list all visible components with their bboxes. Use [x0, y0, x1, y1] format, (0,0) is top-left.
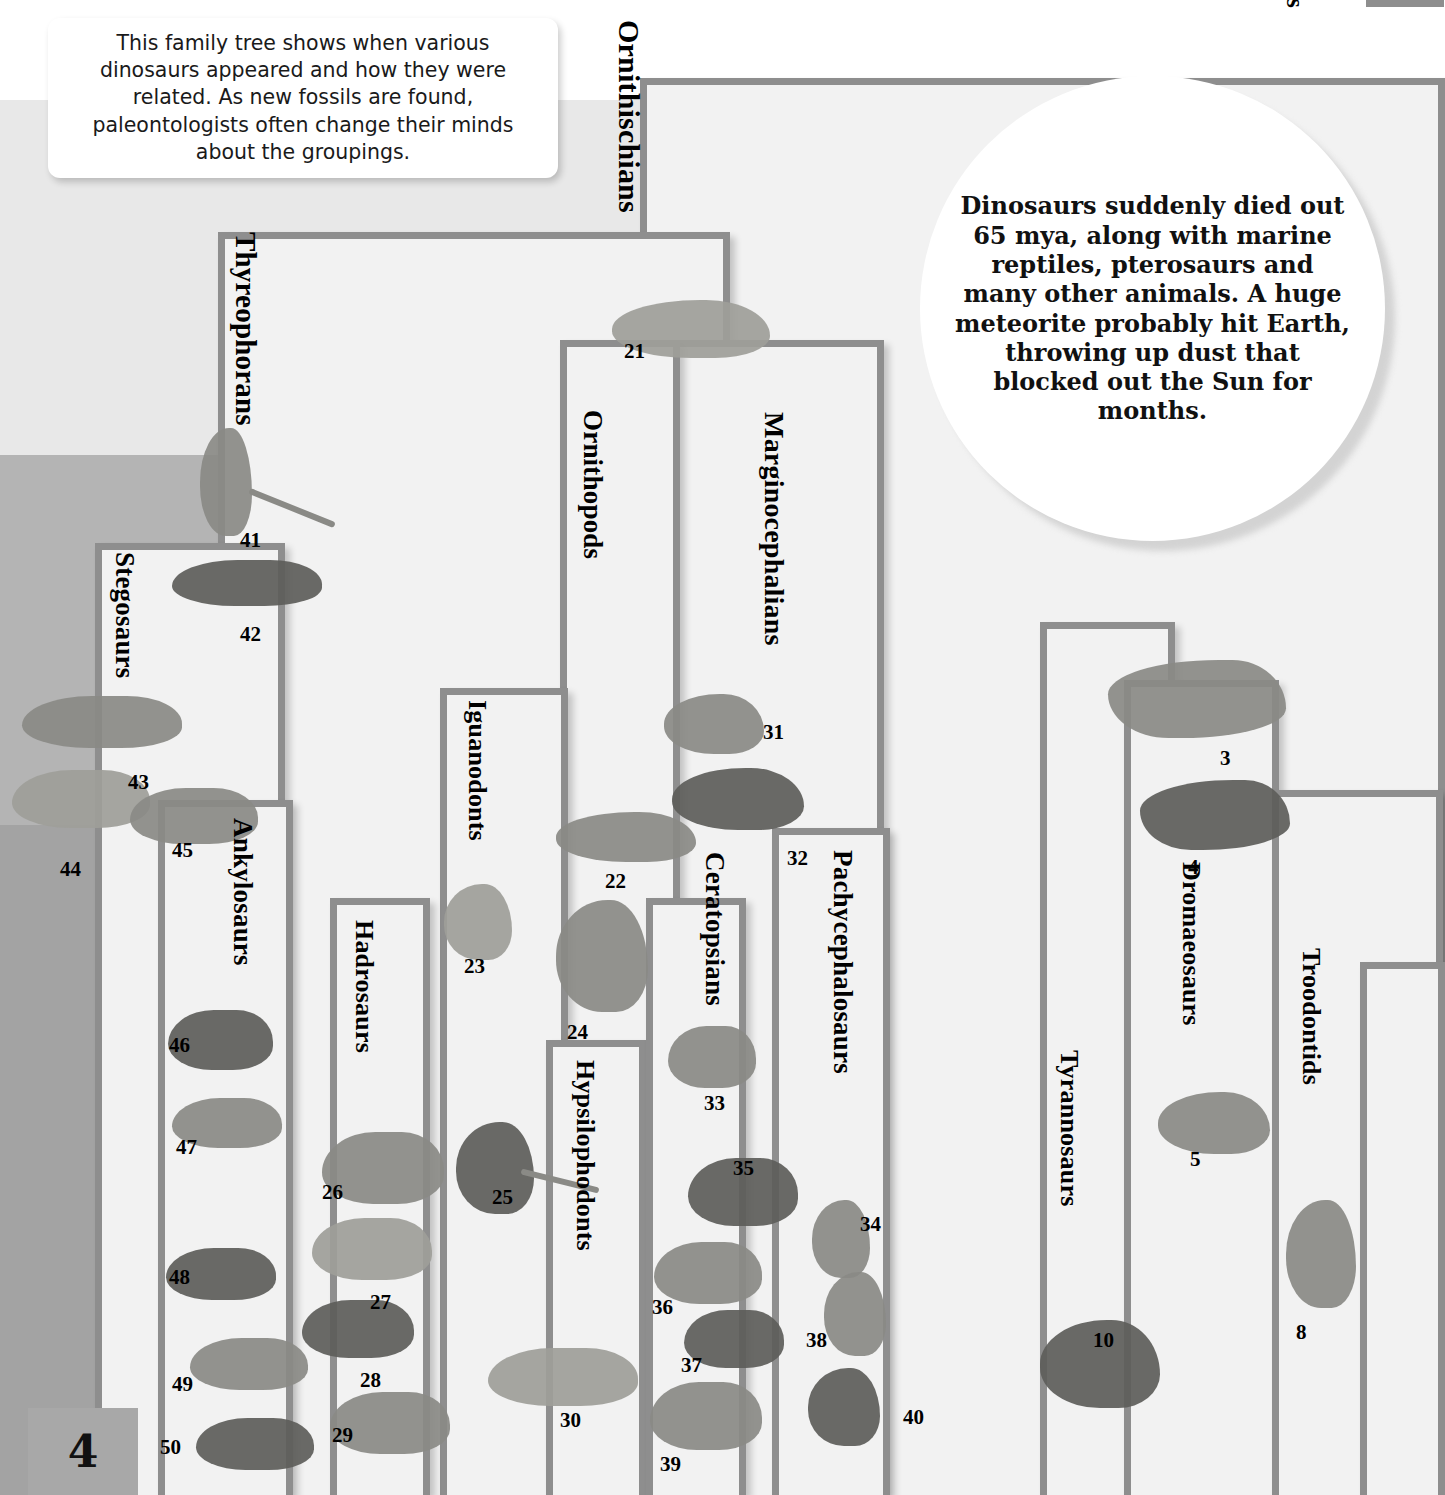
clade-label-hadrosaurs: Hadrosaurs — [349, 920, 379, 1053]
clade-label-marginocephalians: Marginocephalians — [758, 412, 790, 646]
specimen-number-24: 24 — [567, 1020, 588, 1045]
specimen-number-50: 50 — [160, 1435, 181, 1460]
clade-label-ankylosaurs: Ankylosaurs — [227, 818, 258, 966]
specimen-number-5: 5 — [1190, 1147, 1201, 1172]
clade-label-pachycephalosaurs: Pachycephalosaurs — [827, 850, 858, 1074]
clade-label-dromaeosaurs: Dromaeosaurs — [1176, 862, 1206, 1026]
specimen-number-45: 45 — [172, 838, 193, 863]
specimen-number-29: 29 — [332, 1423, 353, 1448]
dino-illustration-5 — [1158, 1092, 1270, 1154]
dino-illustration-8 — [1286, 1200, 1356, 1308]
dino-illustration-41 — [200, 428, 252, 536]
dino-illustration-49 — [190, 1338, 308, 1390]
extinction-callout-circle: Dinosaurs suddenly died out 65 mya, alon… — [920, 76, 1385, 541]
specimen-number-37: 37 — [681, 1353, 702, 1378]
specimen-number-40: 40 — [903, 1405, 924, 1430]
clade-label-stegosaurs: Stegosaurs — [109, 552, 140, 679]
clade-label-hypsilophodonts: Hypsilophodonts — [570, 1060, 600, 1251]
specimen-number-32: 32 — [787, 846, 808, 871]
dino-illustration-40 — [808, 1368, 880, 1446]
specimen-number-48: 48 — [169, 1265, 190, 1290]
specimen-number-46: 46 — [169, 1033, 190, 1058]
clade-label-thyreophorans: Thyreophorans — [229, 232, 262, 426]
clade-label-troodontids: Troodontids — [1296, 948, 1326, 1085]
dino-illustration-4 — [1140, 780, 1290, 850]
specimen-number-27: 27 — [370, 1290, 391, 1315]
intro-caption-text: This family tree shows when various dino… — [68, 30, 538, 166]
dino-illustration-24 — [556, 900, 648, 1012]
clade-bracket-troodontids-inner — [1360, 962, 1445, 1495]
clade-label-iguanodonts: Iguanodonts — [462, 700, 492, 841]
specimen-number-23: 23 — [464, 954, 485, 979]
specimen-number-44: 44 — [60, 857, 81, 882]
specimen-number-21: 21 — [624, 339, 645, 364]
specimen-number-22: 22 — [605, 869, 626, 894]
dino-illustration-39 — [650, 1382, 762, 1450]
specimen-number-49: 49 — [172, 1372, 193, 1397]
specimen-number-8: 8 — [1296, 1320, 1307, 1345]
specimen-number-25: 25 — [492, 1185, 513, 1210]
specimen-number-10: 10 — [1093, 1328, 1114, 1353]
specimen-number-36: 36 — [652, 1295, 673, 1320]
dino-illustration-33 — [668, 1026, 756, 1088]
specimen-number-4: 4 — [1188, 855, 1199, 880]
specimen-number-43: 43 — [128, 770, 149, 795]
specimen-number-33: 33 — [704, 1091, 725, 1116]
clade-label-ceratopsians: Ceratopsians — [699, 852, 730, 1006]
cut-off-label-glyph: s — [1281, 0, 1309, 8]
specimen-number-30: 30 — [560, 1408, 581, 1433]
dino-illustration-23 — [444, 884, 512, 960]
specimen-number-42: 42 — [240, 622, 261, 647]
clade-label-ornithischians: Ornithischians — [612, 20, 646, 213]
dino-illustration-32 — [672, 768, 804, 830]
specimen-number-47: 47 — [176, 1135, 197, 1160]
dino-illustration-28 — [302, 1300, 414, 1358]
page-number-box: 4 — [28, 1408, 138, 1495]
specimen-number-41: 41 — [240, 528, 261, 553]
dino-illustration-22 — [556, 812, 696, 862]
specimen-number-28: 28 — [360, 1368, 381, 1393]
clade-label-tyrannosaurs: Tyrannosaurs — [1054, 1050, 1084, 1207]
extinction-callout-text: Dinosaurs suddenly died out 65 mya, alon… — [954, 191, 1351, 425]
dino-illustration-50 — [196, 1418, 314, 1470]
dino-illustration-42 — [172, 560, 322, 606]
dino-illustration-38 — [824, 1272, 886, 1356]
dino-illustration-31 — [664, 694, 764, 754]
clade-label-ornithopods: Ornithopods — [577, 410, 608, 559]
specimen-number-39: 39 — [660, 1452, 681, 1477]
dino-illustration-27 — [312, 1218, 432, 1280]
dino-illustration-30 — [488, 1348, 638, 1406]
dino-illustration-43 — [22, 696, 182, 748]
specimen-number-38: 38 — [806, 1328, 827, 1353]
specimen-number-31: 31 — [763, 720, 784, 745]
cut-off-bracket-rule — [1366, 0, 1444, 7]
specimen-number-3: 3 — [1220, 746, 1231, 771]
intro-caption-box: This family tree shows when various dino… — [48, 18, 558, 178]
specimen-number-35: 35 — [733, 1156, 754, 1181]
specimen-number-34: 34 — [860, 1212, 881, 1237]
specimen-number-26: 26 — [322, 1180, 343, 1205]
dino-illustration-3 — [1108, 660, 1286, 738]
